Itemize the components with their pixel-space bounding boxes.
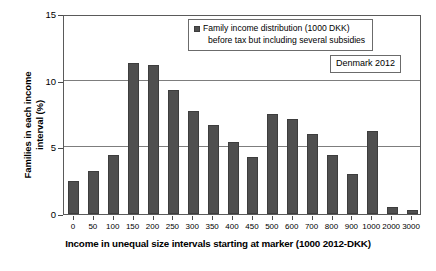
y-axis-title-line-1: Families in each income bbox=[22, 72, 34, 179]
bar bbox=[267, 114, 278, 214]
legend-swatch-icon bbox=[194, 26, 200, 32]
y-axis-title: Families in each income interval (%) bbox=[17, 30, 51, 220]
bar bbox=[188, 111, 199, 214]
x-axis-tick-mark bbox=[391, 216, 392, 220]
bar bbox=[347, 174, 358, 214]
x-axis-tick-mark bbox=[292, 216, 293, 220]
x-axis-tick-mark bbox=[371, 216, 372, 220]
x-axis-tick-mark bbox=[172, 216, 173, 220]
x-axis-tick-mark bbox=[93, 216, 94, 220]
x-axis-tick-mark bbox=[312, 216, 313, 220]
bar bbox=[287, 119, 298, 214]
x-axis-tick-mark bbox=[232, 216, 233, 220]
bar bbox=[88, 171, 99, 214]
legend-label-line-2: before tax but including several subsidi… bbox=[194, 35, 365, 47]
x-axis-tick-mark bbox=[153, 216, 154, 220]
bar bbox=[307, 134, 318, 214]
bar bbox=[148, 65, 159, 214]
bar bbox=[128, 63, 139, 214]
bar bbox=[228, 142, 239, 214]
bar bbox=[68, 181, 79, 214]
y-axis-tick-mark bbox=[58, 215, 63, 216]
bar bbox=[387, 207, 398, 214]
bar bbox=[208, 125, 219, 214]
bar bbox=[108, 155, 119, 214]
y-axis-tick-label: 10 bbox=[26, 77, 56, 87]
bar bbox=[247, 157, 258, 214]
x-axis-tick-mark bbox=[411, 216, 412, 220]
x-axis-tick-mark bbox=[192, 216, 193, 220]
x-axis-tick-mark bbox=[113, 216, 114, 220]
x-axis-tick-mark bbox=[351, 216, 352, 220]
y-axis-tick-label: 0 bbox=[26, 210, 56, 220]
legend-entry: Family income distribution (1000 DKK) bbox=[194, 23, 365, 35]
bar bbox=[327, 155, 338, 214]
annotation-denmark-2012: Denmark 2012 bbox=[330, 55, 401, 73]
legend-label-line-1: Family income distribution (1000 DKK) bbox=[203, 23, 350, 35]
x-axis-tick-mark bbox=[73, 216, 74, 220]
x-axis-tick-mark bbox=[272, 216, 273, 220]
bar-chart: Families in each income interval (%) 051… bbox=[0, 0, 436, 271]
x-axis-title: Income in unequal size intervals startin… bbox=[0, 238, 436, 249]
x-axis-tick-mark bbox=[332, 216, 333, 220]
x-axis-tick-mark bbox=[133, 216, 134, 220]
x-axis-tick-mark bbox=[212, 216, 213, 220]
y-axis-tick-label: 5 bbox=[26, 143, 56, 153]
bar bbox=[407, 210, 418, 214]
x-axis-tick-label: 3000 bbox=[394, 222, 428, 231]
legend: Family income distribution (1000 DKK) be… bbox=[188, 19, 373, 51]
x-axis-tick-mark bbox=[252, 216, 253, 220]
annotation-label: Denmark 2012 bbox=[336, 58, 395, 68]
bar bbox=[168, 90, 179, 214]
y-axis-tick-label: 15 bbox=[26, 10, 56, 20]
bar bbox=[367, 131, 378, 214]
